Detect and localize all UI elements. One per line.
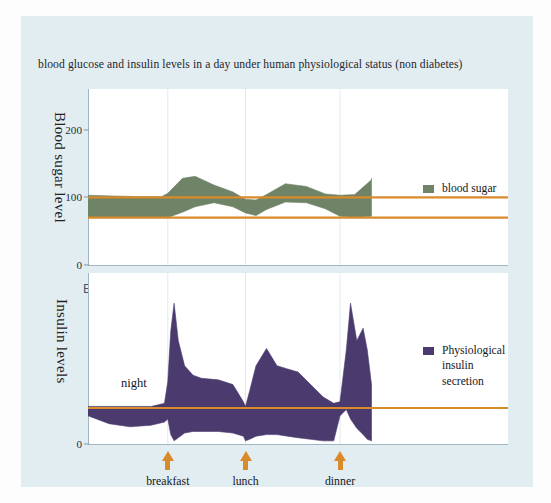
legend-label-blood-sugar: blood sugar: [442, 181, 496, 196]
chart-panel-insulin: 0 night Physiological insulin secretion: [88, 273, 508, 445]
blood-sugar-area-svg: [88, 89, 508, 265]
legend-swatch-blood-sugar: [423, 185, 434, 193]
arrow-stem: [165, 460, 170, 470]
y-tick-a-0: 0: [76, 259, 88, 271]
chart-panel-blood-sugar: 0100200 blood sugar: [88, 89, 508, 266]
y-tick-b-0: 0: [76, 438, 88, 450]
y-tick-a-100: 100: [65, 191, 88, 203]
y-axis-label-insulin: Insulin levels: [53, 299, 70, 384]
legend-insulin: Physiological insulin secretion: [423, 343, 505, 389]
legend-swatch-insulin: [423, 347, 434, 355]
figure-canvas: blood glucose and insulin levels in a da…: [21, 16, 533, 487]
meal-label-breakfast: breakfast: [146, 474, 189, 489]
y-tick-a-200: 200: [65, 124, 88, 136]
legend-blood-sugar: blood sugar: [423, 181, 496, 196]
figure-title: blood glucose and insulin levels in a da…: [38, 58, 538, 71]
arrow-stem: [243, 460, 248, 470]
arrow-stem: [338, 460, 343, 470]
night-annotation: night: [121, 376, 147, 391]
plot-area-a: [88, 89, 508, 265]
legend-label-insulin: Physiological insulin secretion: [442, 343, 505, 389]
meal-label-dinner: dinner: [325, 474, 355, 489]
meal-label-lunch: lunch: [232, 474, 258, 489]
